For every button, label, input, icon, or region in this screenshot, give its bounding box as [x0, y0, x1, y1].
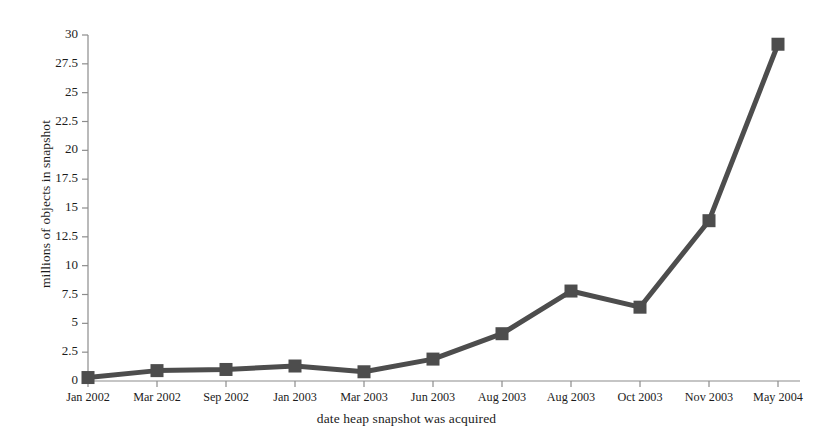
x-tick-label: Mar 2002 [117, 390, 197, 405]
line-chart-plot [0, 0, 813, 440]
series-line-path [88, 44, 778, 377]
data-point-marker [358, 365, 371, 378]
x-tick-label: Jun 2003 [393, 390, 473, 405]
data-point-marker [82, 371, 95, 384]
data-point-marker [151, 364, 164, 377]
x-tick-label: Sep 2002 [186, 390, 266, 405]
x-axis-title: date heap snapshot was acquired [0, 411, 813, 427]
y-axis-title: millions of objects in snapshot [38, 79, 54, 329]
data-point-marker [220, 363, 233, 376]
x-tick-label: Aug 2003 [462, 390, 542, 405]
x-tick-label: May 2004 [738, 390, 813, 405]
y-tick-label: 30 [32, 26, 78, 42]
y-tick-label: 2.5 [32, 343, 78, 359]
x-tick-marks [88, 381, 778, 387]
data-series [82, 38, 785, 384]
chart-axes [82, 35, 800, 387]
y-tick-marks [82, 35, 88, 381]
y-tick-label: 27.5 [32, 55, 78, 71]
x-tick-label: Jan 2003 [255, 390, 335, 405]
data-point-marker [772, 38, 785, 51]
data-point-marker [703, 214, 716, 227]
x-tick-label: Mar 2003 [324, 390, 404, 405]
data-point-marker [427, 353, 440, 366]
x-tick-label: Aug 2003 [531, 390, 611, 405]
data-point-marker [289, 360, 302, 373]
chart-figure: 02.557.51012.51517.52022.52527.530 Jan 2… [0, 0, 813, 440]
data-point-marker [496, 327, 509, 340]
data-point-marker [634, 301, 647, 314]
x-tick-label: Oct 2003 [600, 390, 680, 405]
series-markers [82, 38, 785, 384]
y-tick-label: 0 [32, 372, 78, 388]
x-tick-label: Jan 2002 [48, 390, 128, 405]
x-tick-label: Nov 2003 [669, 390, 749, 405]
data-point-marker [565, 285, 578, 298]
